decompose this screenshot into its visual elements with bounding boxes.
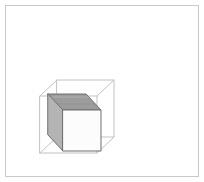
nested-cube-figure [0,0,204,182]
inner-cube [48,94,101,151]
illustration-canvas: Nested cube diagram A small solid shaded… [0,0,204,182]
inner-cube-front-face [63,110,101,151]
